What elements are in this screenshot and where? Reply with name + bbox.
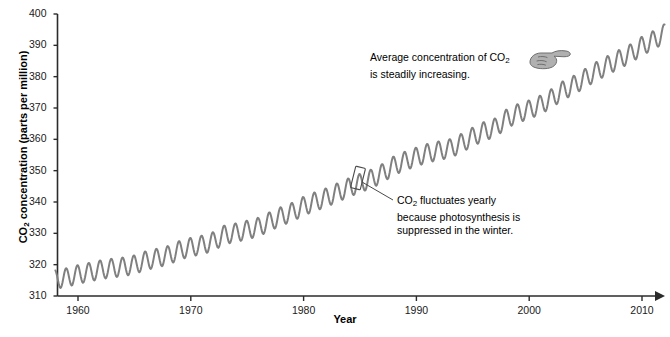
annotation-top-line-2: is steadily increasing. bbox=[370, 68, 510, 82]
y-axis-tick-label: 340 bbox=[19, 195, 47, 207]
x-axis-tick-label: 1960 bbox=[58, 304, 98, 316]
annotation-top-line-1: Average concentration of CO2 bbox=[370, 51, 510, 68]
co2-concentration-chart: CO2 concentration (parts per million) Ye… bbox=[0, 0, 670, 337]
y-axis-tick-label: 360 bbox=[19, 132, 47, 144]
annotation-bottom-text-pre: CO bbox=[397, 194, 413, 206]
annotation-bottom-text-post: fluctuates yearly bbox=[417, 194, 496, 206]
annotation-bottom-line-1: CO2 fluctuates yearly bbox=[397, 194, 520, 211]
pointing-hand-icon bbox=[528, 45, 574, 75]
y-axis-tick-label: 330 bbox=[19, 226, 47, 238]
annotation-average-increasing: Average concentration of CO2 is steadily… bbox=[370, 51, 510, 81]
x-axis-tick-label: 2000 bbox=[509, 304, 549, 316]
annotation-top-subscript: 2 bbox=[505, 56, 509, 65]
annotation-bottom-line-3: suppressed in the winter. bbox=[397, 224, 520, 238]
y-axis-tick-label: 370 bbox=[19, 101, 47, 113]
x-axis-tick-label: 2010 bbox=[622, 304, 662, 316]
y-axis-tick-label: 350 bbox=[19, 164, 47, 176]
y-axis-tick-label: 310 bbox=[19, 289, 47, 301]
x-axis-tick-label: 1980 bbox=[284, 304, 324, 316]
y-axis-tick-label: 320 bbox=[19, 258, 47, 270]
y-axis-tick-label: 380 bbox=[19, 70, 47, 82]
x-axis-tick-label: 1990 bbox=[396, 304, 436, 316]
x-axis-arrowhead bbox=[655, 291, 665, 301]
annotation-seasonal-fluctuation: CO2 fluctuates yearly because photosynth… bbox=[397, 194, 520, 238]
x-axis-tick-label: 1970 bbox=[171, 304, 211, 316]
annotation-top-text-pre: Average concentration of CO bbox=[370, 51, 505, 63]
y-axis-tick-label: 400 bbox=[19, 7, 47, 19]
y-axis-tick-label: 390 bbox=[19, 38, 47, 50]
annotation-bottom-line-2: because photosynthesis is bbox=[397, 211, 520, 225]
